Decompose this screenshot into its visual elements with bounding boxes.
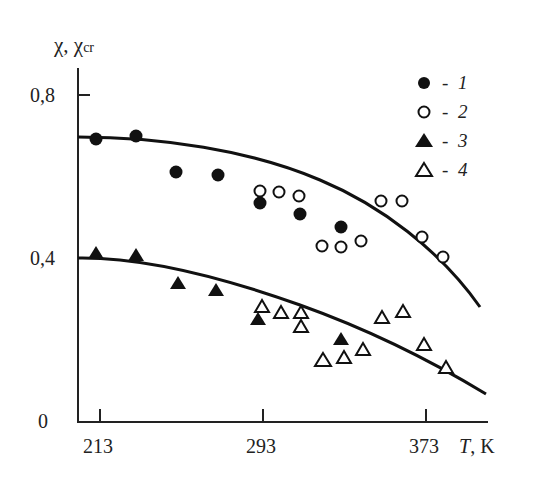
- legend-marker-filled-circle: [418, 77, 430, 89]
- data-point: [315, 353, 331, 366]
- data-point: [417, 338, 431, 350]
- data-point: [274, 306, 288, 318]
- data-point: [396, 305, 410, 317]
- data-point: [88, 246, 104, 259]
- data-point: [274, 187, 285, 198]
- data-point: [438, 252, 449, 263]
- x-tick-label-373: 373: [409, 435, 439, 457]
- legend-dash: -: [442, 130, 448, 151]
- data-point: [128, 248, 144, 261]
- series-2-points: [255, 186, 449, 263]
- data-point: [255, 186, 266, 197]
- chart: χ, χcr 0,8 0,4 0 213 293 373 T, K: [0, 0, 558, 478]
- x-tick-label-293: 293: [246, 435, 276, 457]
- legend-dash: -: [442, 72, 448, 93]
- legend-label-4: 4: [458, 159, 468, 180]
- data-point: [333, 332, 349, 345]
- legend-marker-open-circle: [419, 107, 430, 118]
- data-point: [212, 169, 225, 182]
- data-point: [208, 283, 224, 296]
- data-point: [250, 312, 266, 325]
- data-point: [170, 276, 186, 289]
- data-point: [397, 196, 408, 207]
- data-point: [170, 166, 183, 179]
- y-axis-label: χ, χcr: [53, 33, 94, 57]
- legend-label-1: 1: [458, 72, 468, 93]
- legend-marker-open-triangle: [416, 163, 432, 176]
- data-point: [254, 197, 267, 210]
- series-1-points: [90, 130, 348, 234]
- series-4-points: [255, 300, 453, 373]
- upper-fit-curve: [78, 137, 480, 307]
- data-point: [294, 191, 305, 202]
- data-point: [336, 242, 347, 253]
- data-point: [417, 232, 428, 243]
- data-point: [356, 236, 367, 247]
- data-point: [337, 351, 351, 363]
- x-axis-label: T, K: [459, 435, 495, 457]
- legend: - 1 - 2 - 3 - 4: [415, 72, 468, 180]
- data-point: [317, 241, 328, 252]
- data-point: [375, 311, 389, 323]
- data-point: [335, 221, 348, 234]
- legend-marker-filled-triangle: [415, 133, 433, 147]
- legend-dash: -: [442, 159, 448, 180]
- x-tick-label-213: 213: [83, 435, 113, 457]
- y-tick-label-08: 0,8: [30, 84, 55, 106]
- y-tick-label-04: 0,4: [30, 247, 55, 269]
- data-point: [294, 208, 307, 221]
- data-point: [130, 130, 143, 143]
- data-point: [90, 133, 103, 146]
- lower-fit-curve: [78, 258, 486, 394]
- y-tick-label-0: 0: [38, 410, 48, 432]
- data-point: [255, 300, 269, 312]
- legend-dash: -: [442, 101, 448, 122]
- data-point: [356, 343, 370, 355]
- data-point: [294, 320, 308, 332]
- legend-label-2: 2: [458, 101, 468, 122]
- data-point: [376, 196, 387, 207]
- legend-label-3: 3: [457, 130, 468, 151]
